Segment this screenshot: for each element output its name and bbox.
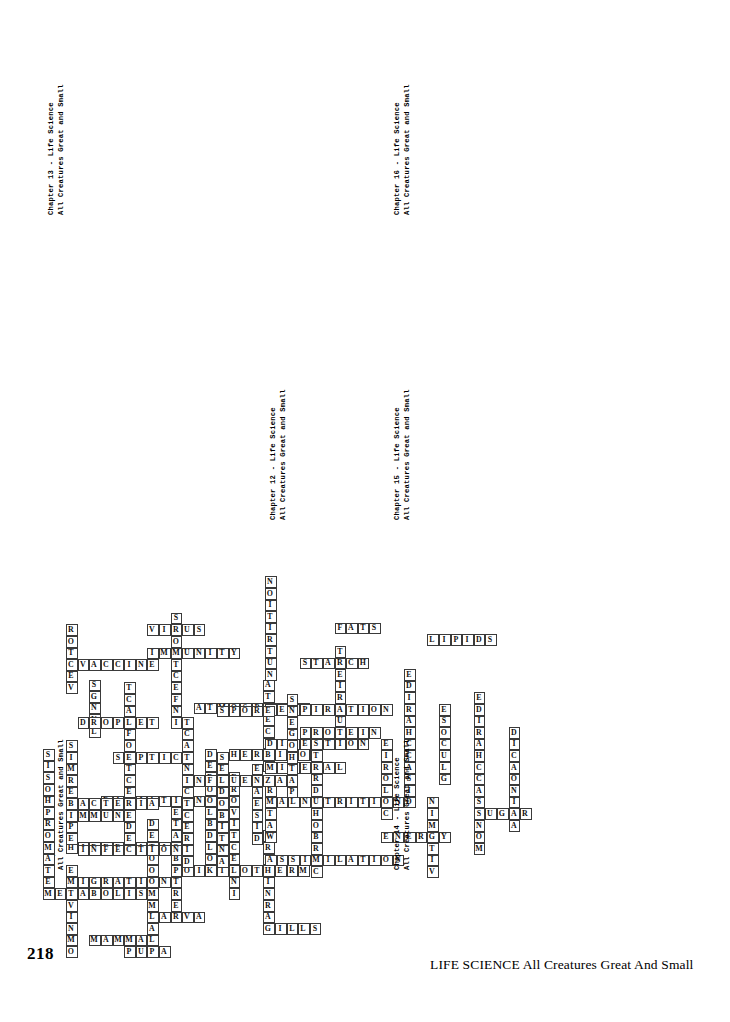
crossword-letter: S	[370, 625, 380, 633]
crossword-cell: B	[217, 810, 229, 822]
crossword-letter: O	[509, 776, 519, 784]
crossword-cell: S	[113, 752, 125, 764]
crossword-cell: I	[427, 855, 439, 867]
crossword-cell: P	[287, 787, 299, 799]
crossword-cell: I	[275, 923, 287, 935]
crossword-cell: A	[217, 857, 229, 869]
crossword-letter: C	[90, 801, 100, 809]
crossword-letter: O	[381, 857, 391, 865]
crossword-letter: E	[136, 719, 146, 727]
crossword-cell: O	[171, 636, 183, 648]
crossword-letter: T	[148, 719, 158, 727]
crossword-letter: O	[101, 890, 111, 898]
crossword-letter: C	[124, 847, 134, 855]
crossword-cell: I	[462, 635, 474, 647]
crossword-letter: E	[43, 879, 53, 887]
crossword-cell: T	[171, 660, 183, 672]
crossword-cell: L	[217, 776, 229, 788]
crossword-letter: I	[66, 754, 76, 762]
crossword-letter: U	[486, 811, 496, 819]
crossword-letter: T	[124, 766, 134, 774]
crossword-cell: O	[381, 774, 393, 786]
crossword-letter: S	[287, 696, 297, 704]
crossword-cell: E	[113, 799, 125, 811]
crossword-letter: R	[182, 835, 192, 843]
crossword-letter: R	[323, 706, 333, 714]
crossword-letter: T	[323, 741, 333, 749]
crossword-letter: M	[428, 822, 438, 830]
crossword-cell: I	[159, 752, 171, 764]
crossword-letter: E	[474, 695, 484, 703]
crossword-cell: G	[263, 923, 275, 935]
crossword-cell: I	[381, 751, 393, 763]
crossword-cell: E	[66, 834, 78, 846]
crossword-letter: I	[370, 857, 380, 865]
crossword-letter: V	[66, 685, 76, 693]
crossword-letter: V	[78, 661, 88, 669]
crossword-letter: T	[346, 706, 356, 714]
crossword-letter: B	[66, 801, 76, 809]
crossword-letter: C	[182, 812, 192, 820]
puzzle-title-line2: All Creatures Great and Small	[402, 739, 412, 870]
crossword-letter: L	[217, 777, 227, 785]
crossword-letter: R	[171, 913, 181, 921]
crossword-letter: L	[381, 787, 391, 795]
crossword-letter: R	[264, 902, 274, 910]
crossword-letter: O	[287, 743, 297, 751]
crossword-letter: I	[346, 799, 356, 807]
crossword-cell: E	[147, 660, 159, 672]
crossword-letter: E	[113, 847, 123, 855]
crossword-letter: C	[439, 741, 449, 749]
crossword-cell: C	[182, 729, 194, 741]
crossword-cell: O	[101, 888, 113, 900]
crossword-cell: E	[381, 739, 393, 751]
crossword-letter: I	[78, 847, 88, 855]
crossword-cell: T	[182, 718, 194, 730]
crossword-cell: U	[182, 648, 194, 660]
crossword-cell: T	[124, 877, 136, 889]
crossword-letter: V	[182, 913, 192, 921]
crossword-letter: I	[462, 637, 472, 645]
crossword-letter: M	[171, 650, 181, 658]
crossword-cell: I	[358, 704, 370, 716]
crossword-cell: G	[89, 877, 101, 889]
crossword-letter: T	[171, 661, 181, 669]
crossword-letter: U	[101, 812, 111, 820]
crossword-letter: A	[78, 890, 88, 898]
crossword-letter: S	[486, 637, 496, 645]
crossword-cell: N	[381, 704, 393, 716]
crossword-letter: O	[159, 847, 169, 855]
crossword-letter: E	[381, 741, 391, 749]
crossword-cell: E	[124, 752, 136, 764]
crossword-cell: O	[474, 832, 486, 844]
crossword-cell: N	[66, 923, 78, 935]
crossword-cell: F	[171, 694, 183, 706]
crossword-cell: L	[147, 912, 159, 924]
crossword-letter: S	[474, 799, 484, 807]
crossword-letter: I	[217, 867, 227, 875]
crossword-letter: A	[136, 937, 146, 945]
puzzle-title-chapter-15: Chapter 15 - Life ScienceAll Creatures G…	[392, 389, 413, 520]
crossword-letter: I	[358, 706, 368, 714]
crossword-cell: A	[263, 912, 275, 924]
crossword-cell: C	[439, 739, 451, 751]
crossword-letter: C	[381, 811, 391, 819]
crossword-letter: I	[66, 812, 76, 820]
crossword-cell: R	[124, 799, 136, 811]
crossword-cell: Y	[229, 648, 241, 660]
puzzle-host: Chapter 11 - Life ScienceAll Creatures G…	[0, 0, 730, 1022]
crossword-cell: A	[474, 739, 486, 751]
crossword-cell: R	[520, 809, 532, 821]
crossword-letter: P	[124, 948, 134, 956]
crossword-cell: E	[124, 810, 136, 822]
crossword-letter: A	[509, 811, 519, 819]
crossword-letter: L	[113, 890, 123, 898]
crossword-cell: E	[66, 671, 78, 683]
crossword-cell: N	[113, 810, 125, 822]
crossword-cell: H	[404, 728, 416, 740]
puzzle-title-line2: All Creatures Great and Small	[402, 84, 412, 215]
puzzle-title-line1: Chapter 14 - Life Science	[392, 739, 402, 870]
puzzle-title-chapter-12: Chapter 12 - Life ScienceAll Creatures G…	[268, 389, 289, 520]
crossword-letter: M	[66, 766, 76, 774]
crossword-cell: G	[287, 729, 299, 741]
